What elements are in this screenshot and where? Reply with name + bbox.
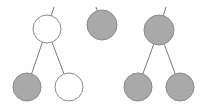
tree-right	[124, 7, 194, 101]
tree-edge	[143, 44, 154, 74]
tree-left	[13, 7, 83, 101]
child-node	[13, 73, 41, 101]
parent-edge	[96, 7, 97, 11]
tree-edge	[32, 42, 43, 74]
root-node	[87, 10, 117, 40]
binary-tree-forest	[0, 0, 204, 110]
root-node	[33, 15, 61, 43]
parent-edge	[51, 7, 54, 16]
tree-diagram	[0, 0, 204, 110]
tree-edge	[52, 42, 64, 74]
parent-edge	[163, 7, 166, 16]
child-node	[55, 73, 83, 101]
root-node	[144, 15, 174, 45]
tree-edge	[164, 44, 175, 74]
tree-middle	[87, 7, 117, 40]
child-node	[124, 73, 152, 101]
child-node	[166, 73, 194, 101]
